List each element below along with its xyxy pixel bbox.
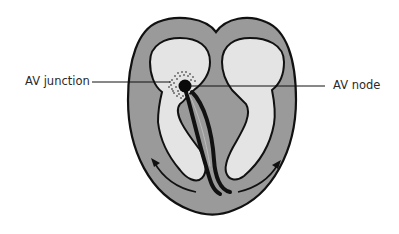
heart-diagram: AV junction AV node bbox=[0, 0, 399, 234]
av-node bbox=[179, 80, 192, 93]
heart-illustration bbox=[0, 0, 399, 234]
av-junction-label: AV junction bbox=[25, 76, 90, 88]
av-node-label: AV node bbox=[333, 80, 380, 92]
